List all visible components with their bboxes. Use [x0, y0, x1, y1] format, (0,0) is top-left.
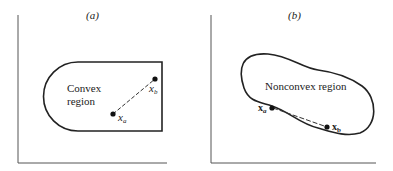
convex-region-label-line2: region: [67, 95, 96, 107]
convexity-diagram: (a) Convex region xa xb (b) Nonconvex re…: [0, 0, 393, 171]
segment-xa-xb-b: [273, 108, 327, 127]
convex-region-shape: [43, 62, 162, 131]
nonconvex-region-label: Nonconvex region: [265, 80, 347, 92]
point-xa-b: [269, 105, 274, 110]
point-xa-a: [110, 111, 115, 116]
panel-b: (b) Nonconvex region xa xb: [211, 9, 376, 163]
convex-region-label-line1: Convex: [67, 82, 102, 94]
panel-a: (a) Convex region xa xb: [18, 9, 167, 163]
label-xa-a: xa: [117, 111, 127, 125]
point-xb-b: [324, 124, 329, 129]
panel-a-title: (a): [86, 9, 99, 22]
point-xb-a: [152, 76, 157, 81]
label-xb-a: xb: [148, 82, 158, 96]
nonconvex-region-shape: [241, 54, 374, 135]
panel-b-title: (b): [288, 9, 301, 22]
